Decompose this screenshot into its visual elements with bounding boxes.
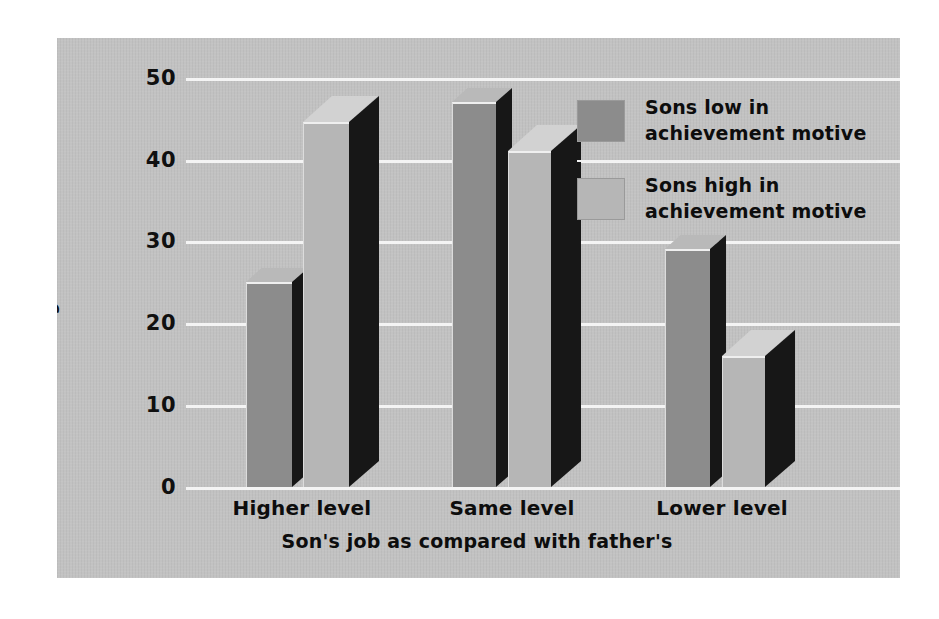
y-axis-title: Percentage of sons	[57, 188, 59, 428]
legend-swatch-high-icon	[577, 178, 625, 220]
chart-legend: Sons low in achievement motive Sons high…	[577, 96, 877, 238]
legend-label-low: Sons low in achievement motive	[645, 94, 867, 146]
x-tick-label-same-level: Same level	[417, 496, 607, 520]
bar-higher-level-high	[303, 122, 349, 487]
legend-divider	[577, 160, 877, 162]
bar-side-face	[349, 96, 379, 487]
bar-lower-level-low	[665, 249, 710, 487]
bar-front-face	[722, 356, 765, 487]
bar-front-face	[303, 122, 349, 487]
y-tick-label-10: 10	[116, 393, 176, 417]
gridline-50	[186, 78, 900, 81]
bar-front-face	[508, 151, 551, 487]
y-tick-label-0: 0	[116, 475, 176, 499]
legend-label-high: Sons high in achievement motive	[645, 172, 867, 224]
x-axis-title: Son's job as compared with father's	[157, 530, 797, 552]
gridline-0	[186, 487, 900, 490]
bar-same-level-low	[452, 102, 496, 487]
bar-front-face	[452, 102, 496, 487]
bar-same-level-high	[508, 151, 551, 487]
bar-front-face	[665, 249, 710, 487]
y-tick-label-30: 30	[116, 229, 176, 253]
legend-entry-sons-low: Sons low in achievement motive	[577, 96, 877, 160]
y-tick-label-40: 40	[116, 148, 176, 172]
chart-page: 50 40 30 20 10 0 Percentage of sons	[0, 0, 939, 619]
bar-front-face	[246, 282, 292, 487]
bar-side-face	[765, 330, 795, 487]
bar-higher-level-low	[246, 282, 292, 487]
x-tick-label-lower-level: Lower level	[627, 496, 817, 520]
y-tick-label-20: 20	[116, 311, 176, 335]
legend-entry-sons-high: Sons high in achievement motive	[577, 174, 877, 238]
plot-area: 50 40 30 20 10 0 Percentage of sons	[57, 38, 900, 578]
y-tick-label-50: 50	[116, 66, 176, 90]
x-tick-label-higher-level: Higher level	[207, 496, 397, 520]
legend-swatch-low-icon	[577, 100, 625, 142]
chart-panel: 50 40 30 20 10 0 Percentage of sons	[57, 38, 900, 578]
bar-lower-level-high	[722, 356, 765, 487]
